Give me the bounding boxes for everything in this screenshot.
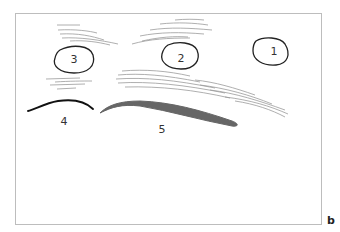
region-4: 4 [28,100,93,128]
hatch-lines-below-3 [46,78,92,89]
region-4-label: 4 [61,115,68,128]
hatch-lines-right-band [116,70,288,117]
region-1: 1 [253,38,288,65]
region-1-label: 1 [271,45,278,58]
region-3: 3 [54,46,93,73]
region-5-label: 5 [159,123,166,136]
region-5: 5 [100,101,237,136]
region-2: 2 [162,43,199,69]
panel-label: b [327,214,335,227]
region-2-label: 2 [178,52,185,65]
diagram-canvas: 3 2 1 4 5 [0,0,340,232]
region-3-label: 3 [71,53,78,66]
hatch-lines-top-center [132,19,212,44]
hatch-lines-top-left [57,25,118,45]
